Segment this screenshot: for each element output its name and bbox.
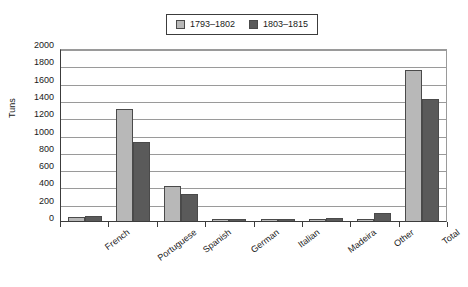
y-axis-tick-label: 1600 bbox=[34, 76, 54, 85]
bar-group bbox=[350, 50, 398, 221]
x-axis-tick bbox=[157, 222, 158, 227]
bar bbox=[229, 219, 246, 221]
bar bbox=[68, 217, 85, 221]
bar bbox=[326, 218, 343, 221]
y-axis-tick-label: 800 bbox=[39, 145, 54, 154]
y-axis-tick-labels: 2000180016001400120010008006004002000 bbox=[24, 45, 54, 227]
x-axis-tick-labels: FrenchPortugueseSpanishGermanItalianMade… bbox=[60, 228, 460, 286]
x-axis-tick bbox=[350, 222, 351, 227]
x-axis-tick-label: Spanish bbox=[201, 228, 232, 255]
bar bbox=[278, 219, 295, 221]
x-axis-tick bbox=[399, 222, 400, 227]
y-axis-tick-label: 2000 bbox=[34, 41, 54, 50]
plot-area bbox=[60, 49, 447, 222]
bar bbox=[181, 194, 198, 221]
x-axis-tick-label: German bbox=[250, 228, 281, 255]
bar bbox=[164, 186, 181, 221]
x-axis-tick bbox=[302, 222, 303, 227]
x-axis-tick bbox=[254, 222, 255, 227]
x-axis-tick-label: Total bbox=[441, 228, 462, 247]
x-axis-tick bbox=[60, 222, 61, 227]
y-axis-tick-label: 1400 bbox=[34, 93, 54, 102]
x-axis-tick-label: Other bbox=[393, 228, 416, 249]
chart-legend: 1793–1802 1803–1815 bbox=[166, 14, 318, 35]
y-axis-tick-label: 400 bbox=[39, 179, 54, 188]
legend-label-series-0: 1793–1802 bbox=[190, 20, 235, 29]
y-axis-tick-label: 1200 bbox=[34, 110, 54, 119]
y-axis-title: Tuns bbox=[7, 98, 17, 118]
legend-entry-1803-1815: 1803–1815 bbox=[249, 20, 308, 29]
bar-group bbox=[205, 50, 253, 221]
x-axis-tick bbox=[108, 222, 109, 227]
legend-swatch-icon-series-1 bbox=[249, 20, 258, 29]
x-axis-tick-label: Italian bbox=[297, 228, 322, 250]
y-axis-tick-label: 200 bbox=[39, 197, 54, 206]
x-axis-tick bbox=[447, 222, 448, 227]
bar bbox=[261, 219, 278, 221]
bar-chart: 1793–1802 1803–1815 Tuns 200018001600140… bbox=[0, 0, 468, 287]
bar bbox=[422, 99, 439, 221]
bars-layer bbox=[61, 50, 446, 221]
bar-group bbox=[61, 50, 109, 221]
legend-label-series-1: 1803–1815 bbox=[263, 20, 308, 29]
y-axis-tick-label: 0 bbox=[49, 214, 54, 223]
bar-group bbox=[157, 50, 205, 221]
y-axis-tick-label: 1800 bbox=[34, 58, 54, 67]
x-axis-tick-label: French bbox=[104, 228, 132, 252]
legend-entry-1793-1802: 1793–1802 bbox=[176, 20, 235, 29]
bar bbox=[357, 219, 374, 221]
x-axis-tick-label: Madeira bbox=[347, 228, 378, 255]
x-axis-tick-label: Portuguese bbox=[156, 228, 198, 263]
legend-swatch-icon-series-0 bbox=[176, 20, 185, 29]
y-axis-tick-label: 600 bbox=[39, 162, 54, 171]
bar bbox=[405, 70, 422, 221]
x-axis-tick bbox=[205, 222, 206, 227]
bar bbox=[85, 216, 102, 221]
bar-group bbox=[254, 50, 302, 221]
bar-group bbox=[302, 50, 350, 221]
bar bbox=[212, 219, 229, 221]
bar bbox=[116, 109, 133, 221]
bar-group bbox=[398, 50, 446, 221]
bar-group bbox=[109, 50, 157, 221]
bar bbox=[133, 142, 150, 221]
bar bbox=[374, 213, 391, 221]
y-axis-tick-label: 1000 bbox=[34, 128, 54, 137]
bar bbox=[309, 219, 326, 221]
